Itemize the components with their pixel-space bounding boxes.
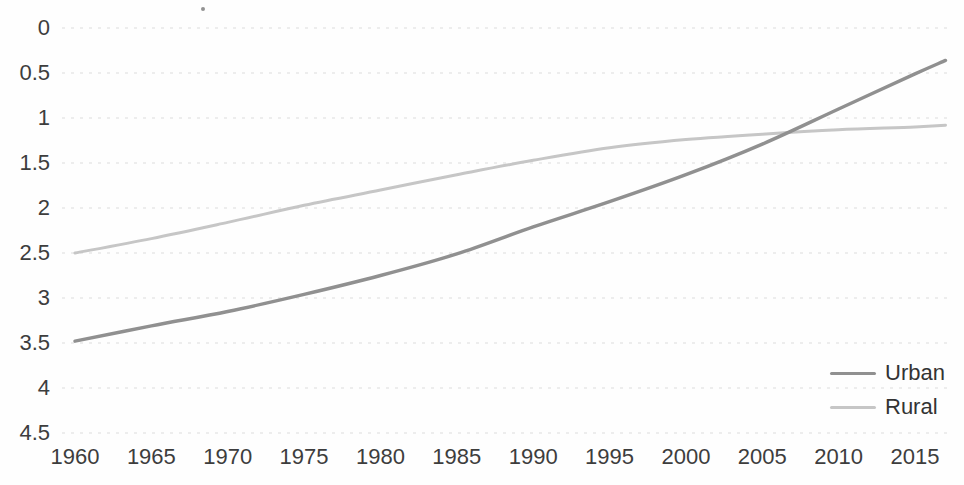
line-chart: 0 0.5 1 1.5 2 2.5 3 3.5 4 4.5 1960 1965 … — [0, 0, 964, 485]
legend: Urban Rural — [830, 358, 945, 426]
x-axis: 1960 1965 1970 1975 1980 1985 1990 1995 … — [0, 0, 964, 485]
rural-line-swatch — [830, 406, 876, 409]
legend-label-urban: Urban — [885, 360, 945, 386]
urban-line-swatch — [830, 372, 876, 375]
x-axis-tick-label: 2000 — [661, 444, 710, 470]
x-axis-tick-label: 1990 — [509, 444, 558, 470]
legend-label-rural: Rural — [885, 394, 938, 420]
x-axis-tick-label: 1965 — [127, 444, 176, 470]
x-axis-tick-label: 1975 — [280, 444, 329, 470]
x-axis-tick-label: 2005 — [738, 444, 787, 470]
x-axis-tick-label: 2010 — [814, 444, 863, 470]
x-axis-tick-label: 1980 — [356, 444, 405, 470]
x-axis-tick-label: 1995 — [585, 444, 634, 470]
x-axis-tick-label: 1985 — [432, 444, 481, 470]
x-axis-tick-label: 1960 — [51, 444, 100, 470]
x-axis-tick-label: 1970 — [203, 444, 252, 470]
legend-item-rural: Rural — [830, 392, 945, 422]
x-axis-tick-label: 2015 — [891, 444, 940, 470]
legend-item-urban: Urban — [830, 358, 945, 388]
